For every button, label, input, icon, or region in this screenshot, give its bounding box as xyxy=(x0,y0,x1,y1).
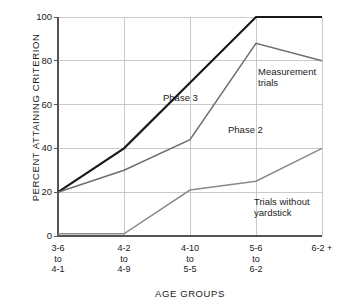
annotation-trials-without-yardstick: Trials withoutyardstick xyxy=(254,196,310,218)
y-tick-label: 100 xyxy=(10,11,52,22)
x-category-label: 4-2to4-9 xyxy=(94,243,154,275)
y-tick-label: 0 xyxy=(10,230,52,241)
chart-figure: 020406080100 3-6to4-14-2to4-94-10to5-55-… xyxy=(0,0,348,307)
annotation-phase-2: Phase 2 xyxy=(228,124,263,135)
annotation-measurement-trials: Measurementtrials xyxy=(258,66,316,88)
x-category-label: 3-6to4-1 xyxy=(28,243,88,275)
x-axis-title: AGE GROUPS xyxy=(58,288,322,299)
x-category-label: 6-2 + xyxy=(292,243,348,254)
annotation-phase-3: Phase 3 xyxy=(163,92,198,103)
x-category-label: 4-10to5-5 xyxy=(160,243,220,275)
x-category-label: 5-6to6-2 xyxy=(226,243,286,275)
y-axis-title: PERCENT ATTAINING CRITERION xyxy=(30,23,41,213)
